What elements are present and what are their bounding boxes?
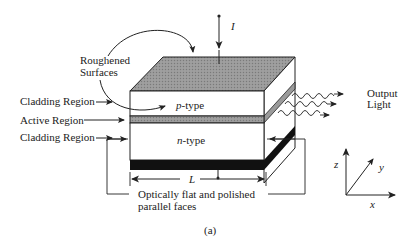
laser-diagram: I Roughened Surfaces p-type n-type Cladd…	[0, 0, 419, 251]
roughened-arrow-top	[108, 30, 193, 56]
axis-z-label: z	[333, 158, 339, 170]
axis-y-label: y	[378, 161, 384, 173]
coordinate-axes: z y x	[333, 149, 395, 210]
n-type-label: n-type	[177, 134, 205, 146]
axis-x-label: x	[369, 198, 375, 210]
current-label: I	[230, 20, 236, 32]
roughened-label-2: Surfaces	[80, 66, 118, 78]
output-label-2: Light	[367, 98, 391, 110]
cladding-top-label: Cladding Region	[20, 95, 95, 107]
cladding-bottom-label: Cladding Region	[20, 131, 95, 143]
faces-label-1: Optically flat and polished	[138, 188, 255, 200]
bottom-contact	[130, 160, 264, 170]
active-label: Active Region	[20, 114, 84, 126]
length-label: L	[188, 173, 195, 185]
roughened-label-1: Roughened	[80, 54, 131, 66]
figure-caption: (a)	[204, 224, 217, 237]
p-type-label: p-type	[175, 99, 204, 111]
active-layer	[130, 116, 264, 123]
length-dimension: L	[130, 172, 266, 186]
bottom-lead	[217, 170, 220, 180]
faces-label-2: parallel faces	[138, 200, 196, 212]
